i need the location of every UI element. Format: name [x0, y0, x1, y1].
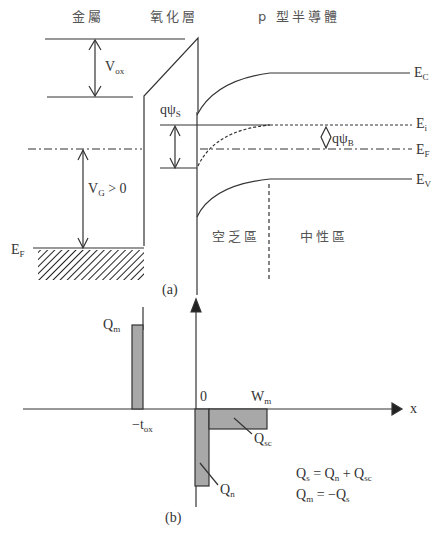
x-label: x	[410, 402, 417, 416]
ei-label: Ei	[416, 117, 427, 133]
wm-label: Wm	[251, 390, 271, 406]
qpsis-label: qψS	[160, 103, 181, 119]
neutral-label: 中性區	[300, 230, 348, 243]
metal-hatch	[38, 250, 144, 280]
zero-label: 0	[200, 390, 207, 404]
semiconductor-title: p 型半導體	[258, 10, 340, 23]
oxide-band	[144, 38, 198, 246]
ev-label: EV	[416, 173, 431, 189]
qm-label: Qm	[103, 318, 120, 334]
mos-diagram	[0, 0, 442, 533]
qn-bar	[195, 409, 209, 486]
ec-label: EC	[414, 66, 429, 82]
vox-label: Vox	[105, 60, 124, 76]
tox-label: −tox	[132, 418, 153, 434]
depletion-label: 空乏區	[212, 230, 260, 243]
ev-curve	[197, 179, 412, 217]
qsc-bar	[209, 409, 267, 429]
ec-curve	[197, 73, 410, 115]
caption-a: (a)	[162, 283, 178, 297]
qpsib-label: qψB	[332, 132, 354, 148]
ei-curve	[198, 125, 270, 166]
vg-label: VG > 0	[88, 182, 127, 198]
equation-qm: Qm = −Qs	[296, 488, 350, 504]
caption-b: (b)	[165, 511, 181, 525]
qn-label: Qn	[220, 483, 235, 499]
oxide-title: 氧化層	[150, 10, 198, 23]
qm-bar	[132, 325, 143, 409]
equation-qs: Qs = Qn + Qsc	[296, 467, 372, 483]
metal-title: 金屬	[72, 10, 104, 23]
ef-metal-label: EF	[11, 243, 25, 259]
ef-label: EF	[416, 143, 430, 159]
qsc-label: Qsc	[254, 432, 272, 448]
